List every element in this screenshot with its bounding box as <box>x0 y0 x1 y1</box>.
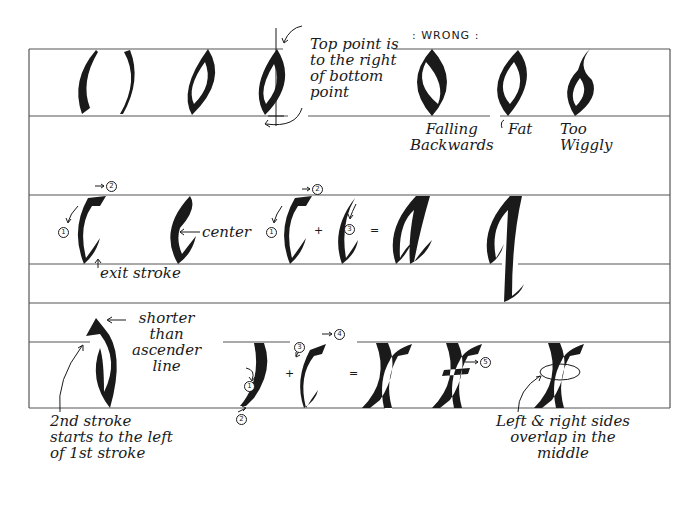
letter-x-2 <box>432 343 482 408</box>
stroke-number-2: 2 <box>312 184 323 195</box>
equals-operator: = <box>349 367 358 380</box>
row2-strokes <box>78 196 524 302</box>
annotation-second-stroke: 2nd stroke starts to the left of 1st str… <box>50 413 173 461</box>
letter-o-fat <box>497 50 527 116</box>
plus-operator: + <box>285 367 294 380</box>
stroke-number-1: 1 <box>58 227 69 238</box>
plus-operator: + <box>314 224 323 237</box>
annotation-center: center <box>202 224 251 240</box>
label-too-wiggly: Too Wiggly <box>560 121 612 153</box>
stroke-number-1: 1 <box>266 227 277 238</box>
label-falling-backwards: Falling Backwards <box>410 121 494 153</box>
letter-c-2 <box>284 196 312 264</box>
stroke-number-5: 5 <box>480 357 491 368</box>
annotation-exit-stroke: exit stroke <box>100 265 181 281</box>
annotation-overlap: Left & right sides overlap in the middle <box>496 413 630 461</box>
annotation-shorter-than-ascender: shorter than ascender line <box>132 310 201 374</box>
stroke-number-2: 2 <box>106 181 117 192</box>
stroke-number-2: 2 <box>236 414 247 425</box>
stroke-number-3: 3 <box>344 224 355 235</box>
stroke-number-3: 3 <box>294 342 305 353</box>
wrong-label: : WRONG : <box>412 29 479 42</box>
stroke-right-paren <box>120 50 135 114</box>
stroke-left-paren <box>78 50 98 114</box>
annotation-top-point: Top point is to the right of bottom poin… <box>310 36 399 100</box>
equals-operator: = <box>370 224 379 237</box>
letter-o-2 <box>259 49 285 115</box>
letter-o-falling-backwards <box>417 49 447 116</box>
stroke-number-1: 1 <box>244 381 255 392</box>
stroke-x-right <box>300 344 326 408</box>
letter-q <box>487 196 524 302</box>
letter-o-1 <box>188 49 216 115</box>
letter-a <box>393 196 432 264</box>
letter-c-1 <box>78 196 106 264</box>
letter-x-1 <box>362 343 412 408</box>
stroke-number-4: 4 <box>334 329 345 340</box>
letter-d <box>86 318 117 408</box>
stroke-x-left <box>240 343 267 406</box>
label-fat: Fat <box>508 121 532 137</box>
letter-o-wiggly <box>567 49 594 116</box>
